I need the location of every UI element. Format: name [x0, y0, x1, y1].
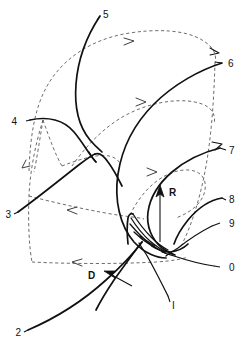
label-8: 8: [229, 194, 235, 205]
leader-7: [220, 148, 226, 150]
curve-2-through: [96, 242, 142, 310]
arrowhead-label-7: [212, 142, 222, 150]
dashed-curve-group: [29, 31, 216, 266]
label-leader-group: [14, 16, 226, 332]
arrowhead-upper-middle: [136, 98, 146, 106]
curve-0: [162, 252, 214, 266]
dashed-tail-left: [34, 120, 43, 172]
leader-2: [24, 330, 28, 332]
trajectory-diagram: 5 6 4 7 3 8 9 0 2 I R D: [0, 0, 244, 345]
arrowhead-bottom: [72, 259, 82, 266]
leader-8: [222, 198, 226, 200]
leader-0: [214, 266, 220, 267]
text-label-group: 5 6 4 7 3 8 9 0 2 I R D: [5, 9, 235, 338]
curve-2: [28, 242, 142, 330]
arrowhead-outer-top: [124, 38, 134, 45]
figure-container: 5 6 4 7 3 8 9 0 2 I R D: [0, 0, 244, 345]
curve-5: [76, 16, 102, 152]
dashed-loop-upper-middle: [72, 101, 215, 166]
label-0: 0: [229, 262, 235, 273]
label-6: 6: [228, 58, 234, 69]
arrowhead-midleft: [67, 207, 77, 214]
label-5: 5: [103, 9, 109, 20]
label-9: 9: [229, 218, 235, 229]
dashed-loop-outer-top: [29, 31, 216, 171]
leader-I: [168, 296, 170, 302]
curve-8: [174, 198, 222, 244]
leader-6: [215, 62, 222, 63]
label-3: 3: [5, 209, 11, 220]
leader-9: [212, 223, 220, 226]
arrowhead-lower-left-tail: [22, 160, 30, 168]
leader-3: [14, 212, 18, 214]
label-4: 4: [11, 116, 17, 127]
label-I: I: [172, 300, 175, 311]
label-D: D: [88, 270, 95, 281]
dashed-loop-left-upper: [43, 120, 62, 166]
label-7: 7: [229, 145, 235, 156]
dashed-sweep-midleft: [29, 196, 144, 219]
label-R: R: [169, 187, 177, 198]
dashed-loop-lower-middle: [130, 170, 205, 218]
solid-curve-group: [18, 16, 222, 330]
arrowhead-lower-middle: [147, 168, 157, 176]
label-2: 2: [15, 327, 21, 338]
leader-4: [26, 120, 30, 121]
